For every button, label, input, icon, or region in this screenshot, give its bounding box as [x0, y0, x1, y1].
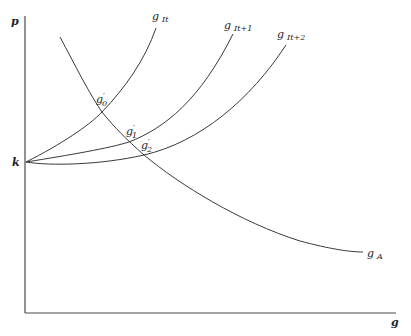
- label-g-it1: gIt+1: [224, 19, 252, 33]
- curve-g-a: [60, 37, 363, 252]
- label-g2-prime: g′2: [141, 137, 152, 154]
- label-g-it: gIt: [152, 10, 169, 24]
- curve-g-it1: [26, 34, 233, 162]
- label-g0-prime: g′0: [96, 91, 107, 108]
- diagram-svg: p g k gIt gIt+1 gIt+2 gA g′0 g′1 g′2: [0, 0, 411, 336]
- y-axis-label: p: [11, 15, 19, 28]
- x-axis-label: g: [391, 316, 399, 329]
- origin-k-label: k: [12, 156, 20, 169]
- label-g-it2: gIt+2: [277, 28, 305, 42]
- curve-g-it2: [26, 45, 286, 164]
- diagram-canvas: p g k gIt gIt+1 gIt+2 gA g′0 g′1 g′2: [0, 0, 411, 336]
- label-g1-prime: g′1: [126, 123, 137, 140]
- label-g-a: gA: [367, 247, 383, 261]
